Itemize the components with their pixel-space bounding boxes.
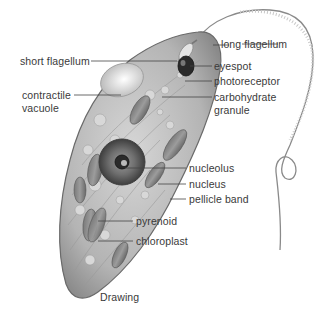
label-long-flagellum: long flagellum [221,38,287,50]
label-carbohydrate-granule-line2: granule [214,104,250,116]
label-pellicle-band: pellicle band [189,193,249,205]
label-short-flagellum: short flagellum [20,55,90,67]
label-contractile-vacuole-line2: vacuole [22,102,59,114]
label-nucleus: nucleus [189,178,226,190]
label-pyrenoid: pyrenoid [136,215,177,227]
figure-caption: Drawing [100,291,139,303]
label-carbohydrate-granule-line1: carbohydrate [214,91,277,103]
euglena-diagram: long flagellum short flagellum eyespot p… [0,0,324,317]
label-eyespot: eyespot [214,60,251,72]
label-nucleolus: nucleolus [189,162,234,174]
label-photoreceptor: photoreceptor [214,75,280,87]
label-contractile-vacuole-line1: contractile [22,89,71,101]
label-chloroplast: chloroplast [136,235,188,247]
